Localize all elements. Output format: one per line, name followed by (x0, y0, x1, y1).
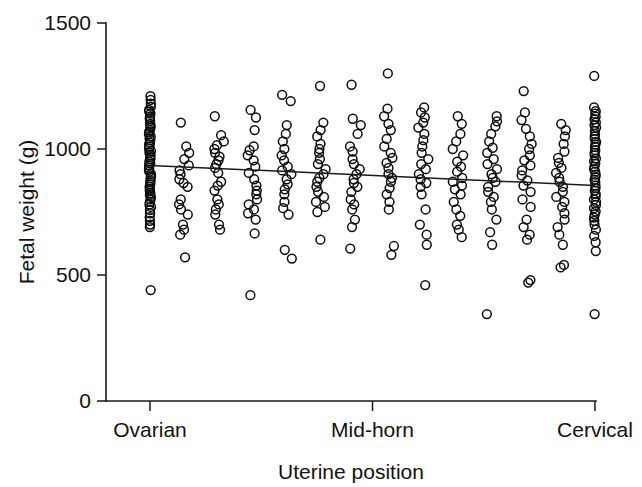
data-point (483, 160, 492, 169)
data-point (246, 291, 255, 300)
y-tick-label: 1000 (44, 137, 91, 160)
y-axis-tick-labels: 050010001500 (44, 11, 91, 412)
data-point (590, 72, 599, 81)
data-point (348, 223, 357, 232)
data-point (356, 121, 365, 130)
data-point (316, 82, 325, 91)
scatter-plot-figure: 050010001500 OvarianMid-hornCervical Fet… (0, 0, 642, 487)
data-point (184, 161, 193, 170)
data-point (348, 205, 357, 214)
x-axis-title: Uterine position (278, 460, 424, 483)
data-point (526, 161, 535, 170)
data-point (312, 198, 321, 207)
data-point (448, 145, 457, 154)
data-point (517, 116, 526, 125)
y-axis-ticks (97, 23, 106, 401)
data-point (280, 245, 289, 254)
data-point (526, 276, 535, 285)
data-point (348, 114, 357, 123)
data-point (320, 192, 329, 201)
data-point (244, 200, 253, 209)
x-axis-tick-labels: OvarianMid-hornCervical (113, 418, 633, 441)
data-point (591, 247, 600, 256)
data-point (175, 200, 184, 209)
y-axis-title: Fetal weight (g) (15, 140, 38, 285)
data-point (313, 208, 322, 217)
data-point (590, 310, 599, 319)
y-tick-label: 500 (56, 263, 91, 286)
data-point (349, 160, 358, 169)
data-point (250, 126, 259, 135)
data-point (390, 242, 399, 251)
x-tick-label: Ovarian (113, 418, 187, 441)
data-point (591, 225, 600, 234)
data-point (278, 90, 287, 99)
data-point (422, 240, 431, 249)
data-point (526, 203, 535, 212)
data-point (183, 210, 192, 219)
x-tick-label: Cervical (557, 418, 633, 441)
data-point (518, 195, 527, 204)
data-point (519, 87, 528, 96)
data-point (314, 187, 323, 196)
data-point (560, 215, 569, 224)
data-point (387, 250, 396, 259)
data-point (386, 148, 395, 157)
data-point (249, 156, 258, 165)
data-point (457, 233, 466, 242)
data-point (382, 158, 391, 167)
data-point (452, 220, 461, 229)
data-point (251, 215, 260, 224)
data-points-layer (145, 69, 601, 318)
data-point (252, 113, 261, 122)
data-point (493, 165, 502, 174)
data-point (486, 228, 495, 237)
data-point (181, 253, 190, 262)
data-point (383, 69, 392, 78)
data-point (524, 278, 533, 287)
data-point (552, 192, 561, 201)
x-tick-label: Mid-horn (331, 418, 414, 441)
data-point (557, 119, 566, 128)
data-point (419, 118, 428, 127)
x-axis-ticks (150, 401, 595, 411)
data-point (176, 118, 185, 127)
data-point (492, 215, 501, 224)
data-point (180, 155, 189, 164)
data-point (590, 232, 599, 241)
data-point (421, 281, 430, 290)
data-point (457, 119, 466, 128)
data-point (346, 244, 355, 253)
data-point (520, 156, 529, 165)
data-point (422, 230, 431, 239)
data-point (525, 151, 534, 160)
plot-canvas: 050010001500 OvarianMid-hornCervical Fet… (0, 0, 642, 487)
data-point (315, 155, 324, 164)
data-point (282, 121, 291, 130)
data-point (482, 310, 491, 319)
data-point (250, 229, 259, 238)
data-point (519, 223, 528, 232)
data-point (421, 205, 430, 214)
data-point (284, 210, 293, 219)
data-point (415, 220, 424, 229)
data-point (590, 195, 599, 204)
data-point (488, 240, 497, 249)
data-point (456, 190, 465, 199)
data-point (353, 129, 362, 138)
data-point (316, 235, 325, 244)
data-point (287, 254, 296, 263)
data-point (388, 153, 397, 162)
data-point (558, 240, 567, 249)
data-point (286, 97, 295, 106)
data-point (210, 112, 219, 121)
data-point (146, 286, 155, 295)
y-tick-label: 1500 (44, 11, 91, 34)
y-tick-label: 0 (79, 389, 91, 412)
data-point (243, 151, 252, 160)
data-point (526, 187, 535, 196)
data-point (591, 238, 600, 247)
data-point (347, 80, 356, 89)
